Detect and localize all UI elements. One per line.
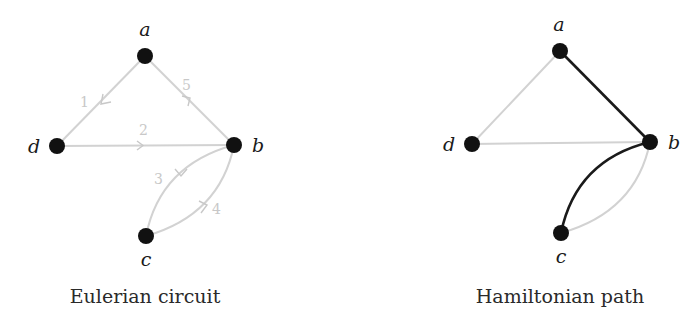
node-label-a: a xyxy=(553,13,564,35)
node-label-c: c xyxy=(141,248,152,270)
node-a xyxy=(137,48,153,64)
arrow-icon-edge-5 xyxy=(182,96,190,106)
edge-label-1: 1 xyxy=(80,94,89,110)
caption-hamiltonian: Hamiltonian path xyxy=(476,285,644,307)
node-b xyxy=(226,137,242,153)
edge-label-3: 3 xyxy=(154,171,163,187)
node-label-b: b xyxy=(252,134,264,156)
edge-d-b xyxy=(57,145,234,146)
edge-a-d xyxy=(472,51,560,144)
edge-c-b xyxy=(561,142,650,233)
edge-d-b xyxy=(472,142,650,144)
node-d xyxy=(49,138,65,154)
edge-label-4: 4 xyxy=(212,201,221,217)
node-label-d: d xyxy=(443,133,455,155)
node-b xyxy=(642,134,658,150)
node-a xyxy=(552,43,568,59)
node-c xyxy=(553,225,569,241)
caption-eulerian: Eulerian circuit xyxy=(70,285,221,307)
node-label-d: d xyxy=(28,135,40,157)
edge-a-b-highlighted xyxy=(560,51,650,142)
edge-label-2: 2 xyxy=(139,122,148,138)
node-label-b: b xyxy=(668,131,680,153)
edge-c-b xyxy=(146,145,234,236)
node-c xyxy=(138,228,154,244)
edge-b-c-highlighted xyxy=(561,142,650,233)
eulerian-circuit-graph: 1 2 3 4 5 a b c d Eulerian circuit xyxy=(28,18,264,307)
graph-figure: 1 2 3 4 5 a b c d Eulerian circuit a b c… xyxy=(0,0,700,318)
node-label-c: c xyxy=(556,245,567,267)
node-d xyxy=(464,136,480,152)
hamiltonian-path-graph: a b c d Hamiltonian path xyxy=(443,13,680,307)
edge-b-c xyxy=(146,145,234,236)
node-label-a: a xyxy=(139,18,150,40)
edge-label-5: 5 xyxy=(182,77,191,93)
